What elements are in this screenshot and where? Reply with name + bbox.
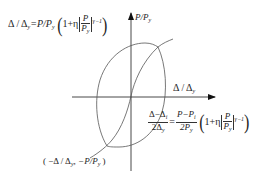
equals-sign: = — [169, 116, 175, 127]
corner-label-close: ) — [100, 156, 105, 166]
branch-lhs-den: 2Δ — [152, 122, 162, 132]
skeleton-eq-one-plus-eta: 1+η — [62, 18, 78, 29]
abs-bar-right — [91, 17, 92, 32]
skeleton-eq-lhs: Δ / Δ — [8, 18, 28, 29]
branch-lhs-num-sub: i — [166, 114, 168, 120]
branch-rhs-num: P−P — [177, 109, 194, 119]
left-paren: ( — [57, 15, 62, 36]
x-axis-label-sub: y — [193, 88, 196, 94]
skeleton-eq-exponent: γ−1 — [93, 18, 102, 24]
branch-eq-exponent: γ−1 — [235, 116, 244, 122]
skeleton-curve — [90, 39, 173, 158]
skeleton-equation: Δ / Δy=P/Py (1+ηPPyγ−1) — [8, 14, 107, 36]
branch-equation: Δ−Δi2Δy=P−Pi2Py (1+ηPPyγ−1) — [148, 110, 249, 135]
branch-rhs-den-sub: y — [190, 127, 193, 133]
skeleton-eq-rhs-sub: y — [52, 24, 55, 30]
branch-eq-lhs-fraction: Δ−Δi2Δy — [148, 110, 168, 135]
branch-rhs-num-sub: i — [194, 114, 196, 120]
y-axis-label-sub: y — [149, 17, 152, 23]
right-paren: ) — [102, 15, 107, 36]
corner-point-label: ( −Δ / Δy, −P/Py ) — [43, 157, 106, 167]
left-paren: ( — [199, 112, 204, 133]
branch-lhs-num: Δ−Δ — [149, 109, 166, 119]
abs-bar-right — [233, 115, 234, 130]
y-axis-label: P/Py — [135, 13, 151, 23]
corner-label-mid: , −P/P — [74, 156, 98, 166]
branch-eq-abs-fraction: PPy — [223, 112, 231, 134]
branch-eq-rhs-fraction: P−Pi2Py — [176, 110, 197, 135]
corner-label-open: ( −Δ / Δ — [43, 156, 71, 166]
right-paren: ) — [244, 112, 249, 133]
branch-rhs-den: 2P — [180, 122, 190, 132]
skeleton-eq-fraction: PPy — [81, 14, 89, 36]
y-axis-label-main: P/P — [135, 12, 149, 22]
fraction-denominator-sub: y — [87, 28, 90, 34]
fraction-denominator-sub: y — [229, 126, 232, 132]
x-axis-label: Δ / Δy — [173, 83, 195, 94]
x-axis-label-main: Δ / Δ — [173, 82, 193, 93]
branch-lhs-den-sub: y — [162, 127, 165, 133]
branch-eq-one-plus-eta: 1+η — [205, 116, 221, 127]
skeleton-eq-rhs-prefix: =P/P — [30, 18, 52, 29]
